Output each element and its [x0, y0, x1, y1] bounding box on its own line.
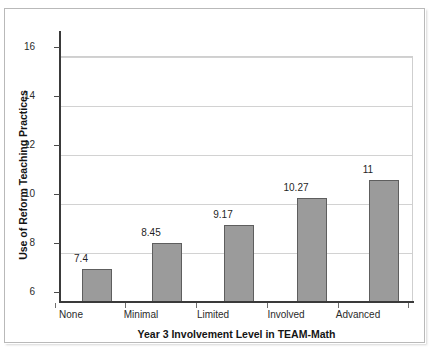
gridline-14	[61, 106, 412, 107]
gridline-16	[61, 57, 412, 58]
bar-minimal[interactable]	[152, 243, 182, 303]
x-tick-label-none: None	[36, 309, 106, 320]
x-axis-title: Year 3 Involvement Level in TEAM-Math	[60, 328, 413, 340]
x-tick-label-advanced: Advanced	[323, 309, 393, 320]
y-tick-mark-16	[54, 47, 60, 48]
bar-limited[interactable]	[224, 225, 254, 303]
y-axis-title: Use of Reform Teaching Practices	[17, 75, 29, 275]
bar-value-none: 7.4	[46, 253, 116, 264]
gridline-10	[61, 204, 412, 205]
y-tick-label-16: 16	[24, 42, 35, 52]
bar-value-involved: 10.27	[261, 182, 331, 193]
x-tick-label-involved: Involved	[251, 309, 321, 320]
bar-value-minimal: 8.45	[116, 227, 186, 238]
x-tick-mark-4	[338, 303, 339, 308]
y-tick-mark-12	[54, 145, 60, 146]
x-tick-mark-0	[55, 303, 56, 308]
x-tick-label-limited: Limited	[178, 309, 248, 320]
y-tick-mark-14	[54, 96, 60, 97]
bar-value-limited: 9.17	[188, 209, 258, 220]
y-tick-mark-10	[54, 194, 60, 195]
page-frame: 16 14 12 10 8 6 None Minimal Limited Inv…	[4, 8, 425, 343]
x-tick-mark-2	[196, 303, 197, 308]
bar-chart-figure: 16 14 12 10 8 6 None Minimal Limited Inv…	[0, 0, 433, 352]
x-tick-mark-3	[267, 303, 268, 308]
y-tick-label-8: 8	[29, 238, 35, 248]
y-tick-mark-8	[54, 243, 60, 244]
plot-area	[60, 56, 413, 302]
y-tick-label-6: 6	[29, 287, 35, 297]
bar-value-advanced: 11	[333, 164, 403, 175]
bar-advanced[interactable]	[369, 180, 399, 303]
bar-none[interactable]	[82, 269, 112, 303]
x-tick-mark-5	[408, 303, 409, 308]
bar-involved[interactable]	[297, 198, 327, 303]
gridline-12	[61, 155, 412, 156]
x-axis-line	[59, 301, 414, 303]
x-tick-mark-1	[125, 303, 126, 308]
x-tick-label-minimal: Minimal	[106, 309, 176, 320]
y-tick-mark-6	[54, 292, 60, 293]
